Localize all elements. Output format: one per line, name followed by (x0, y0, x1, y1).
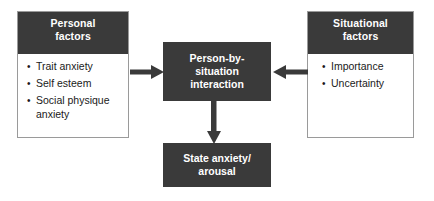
personal-factors-header-line2: factors (20, 30, 126, 43)
situational-factors-header-line1: Situational (310, 17, 411, 30)
outcome-line1: State anxiety/ (183, 152, 251, 165)
interaction-line3: interaction (190, 78, 245, 91)
arrow-interaction-to-outcome-icon (205, 101, 223, 144)
diagram-canvas: Personal factors Trait anxiety Self este… (0, 0, 434, 201)
list-item: Trait anxiety (27, 60, 123, 74)
situational-factors-header: Situational factors (308, 12, 413, 54)
personal-factors-header-line1: Personal (20, 17, 126, 30)
outcome-line2: arousal (183, 165, 251, 178)
arrow-personal-to-interaction-icon (130, 64, 164, 80)
interaction-line2: situation (190, 65, 245, 78)
personal-factors-body: Trait anxiety Self esteem Social physiqu… (18, 54, 128, 129)
outcome-text: State anxiety/ arousal (183, 152, 251, 178)
list-item: Uncertainty (322, 77, 408, 91)
list-item: Self esteem (27, 77, 123, 91)
personal-factors-header: Personal factors (18, 12, 128, 54)
interaction-line1: Person-by- (190, 52, 245, 65)
situational-factors-list: Importance Uncertainty (322, 60, 408, 91)
arrow-situational-to-interaction-icon (270, 64, 308, 80)
list-item: Importance (322, 60, 408, 74)
node-situational-factors: Situational factors Importance Uncertain… (307, 11, 414, 138)
node-state-anxiety-arousal: State anxiety/ arousal (163, 143, 271, 187)
situational-factors-header-line2: factors (310, 30, 411, 43)
node-person-by-situation-interaction: Person-by- situation interaction (163, 42, 271, 101)
personal-factors-list: Trait anxiety Self esteem Social physiqu… (27, 60, 123, 121)
node-personal-factors: Personal factors Trait anxiety Self este… (17, 11, 129, 138)
interaction-text: Person-by- situation interaction (190, 52, 245, 91)
situational-factors-body: Importance Uncertainty (308, 54, 413, 98)
list-item: Social physique anxiety (27, 94, 123, 121)
